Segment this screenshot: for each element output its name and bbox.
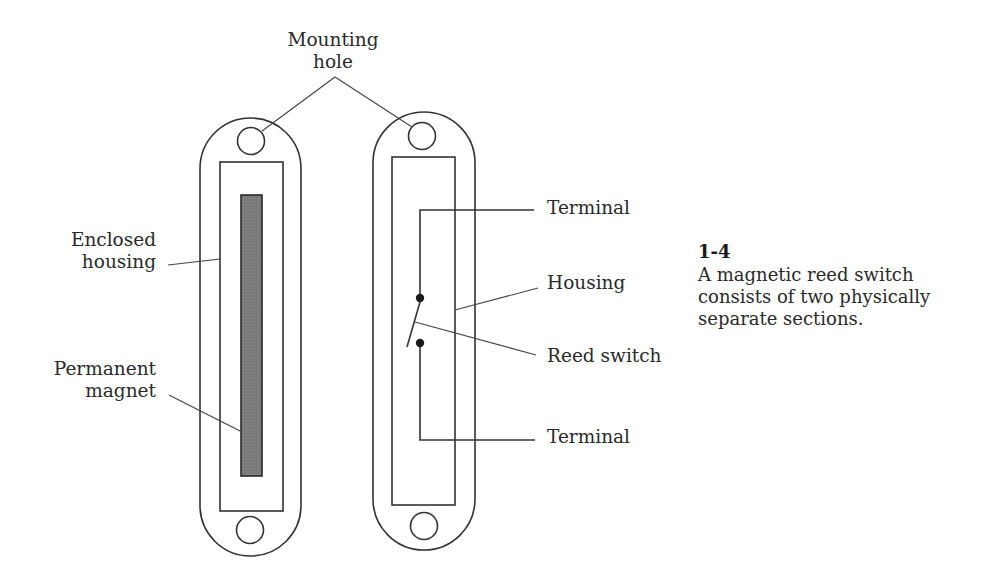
label-terminal-top: Terminal — [547, 197, 630, 218]
mounting-hole-top-right — [409, 123, 436, 150]
caption-line-1: A magnetic reed switch — [697, 264, 914, 285]
leader-housing — [455, 288, 538, 310]
magnet-unit — [200, 118, 301, 556]
label-permanent-magnet-line1: Permanent — [54, 358, 157, 379]
label-housing: Housing — [547, 272, 626, 293]
reed-switch-diagram: Mounting hole Enclosed housing Permanent… — [0, 0, 987, 579]
terminal-wire-top — [420, 210, 534, 298]
switch-outer-housing — [373, 112, 475, 550]
leader-enclosed-housing — [168, 259, 220, 265]
figure-number: 1-4 — [698, 241, 731, 262]
permanent-magnet-bar — [241, 195, 262, 476]
label-mounting-hole-line1: Mounting — [287, 29, 378, 50]
leader-mounting-hole — [262, 77, 412, 131]
label-permanent-magnet-line2: magnet — [85, 380, 156, 401]
figure-caption: 1-4 A magnetic reed switch consists of t… — [697, 241, 931, 329]
mounting-hole-top-left — [238, 128, 265, 155]
label-mounting-hole-line2: hole — [313, 51, 353, 72]
label-enclosed-housing-line1: Enclosed — [71, 229, 156, 250]
reed-contact-top — [416, 294, 424, 302]
mounting-hole-bottom-left — [237, 517, 264, 544]
leader-permanent-magnet — [169, 395, 242, 432]
label-enclosed-housing-line2: housing — [82, 251, 156, 272]
leader-lines — [168, 77, 538, 432]
label-terminal-bottom: Terminal — [547, 426, 630, 447]
label-reed-switch: Reed switch — [547, 345, 662, 366]
reed-contact-bottom — [416, 339, 424, 347]
switch-unit — [373, 112, 535, 550]
mounting-hole-bottom-right — [411, 513, 438, 540]
terminal-wire-bottom — [420, 343, 535, 440]
caption-line-3: separate sections. — [698, 308, 863, 329]
caption-line-2: consists of two physically — [698, 286, 931, 307]
